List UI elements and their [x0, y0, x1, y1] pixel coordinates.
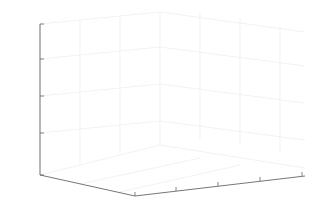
figure-3d-diagram: [0, 0, 317, 208]
grid-lines: [40, 12, 305, 192]
